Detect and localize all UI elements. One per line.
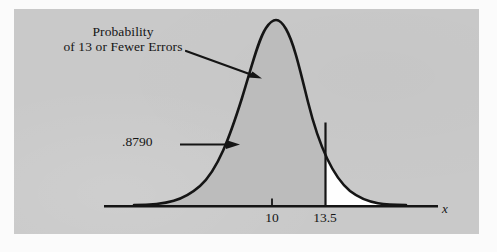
figure-root: Probability of 13 or Fewer Errors .8790 … <box>0 0 497 252</box>
probability-annotation-line1: Probability <box>38 24 208 39</box>
area-value-label: .8790 <box>122 134 152 149</box>
probability-annotation-label: Probability of 13 or Fewer Errors <box>38 24 208 54</box>
x-axis-label: x <box>442 202 448 217</box>
x-axis-tick-label-cutoff: 13.5 <box>305 210 345 225</box>
probability-annotation-line2: of 13 or Fewer Errors <box>38 39 208 54</box>
x-axis-tick-label-mean: 10 <box>258 210 286 225</box>
